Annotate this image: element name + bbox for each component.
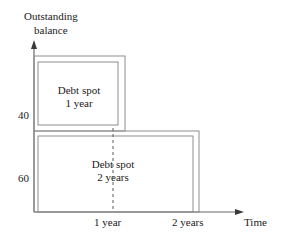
diagram-vector-layer xyxy=(0,0,294,248)
block-1-inner-rect xyxy=(38,62,118,125)
block-1-debt-spot-1-year xyxy=(34,56,125,131)
axes-group xyxy=(31,40,244,215)
block-2-outer-rect xyxy=(34,131,199,212)
block-2-debt-spot-2-years xyxy=(34,131,199,212)
y-axis-arrowhead xyxy=(31,40,37,49)
x-axis-arrowhead xyxy=(235,209,244,215)
block-1-outer-rect xyxy=(34,56,125,131)
block-2-inner-rect xyxy=(38,136,193,212)
outstanding-balance-diagram: Outstanding balance Time 40 60 1 year 2 … xyxy=(0,0,294,248)
